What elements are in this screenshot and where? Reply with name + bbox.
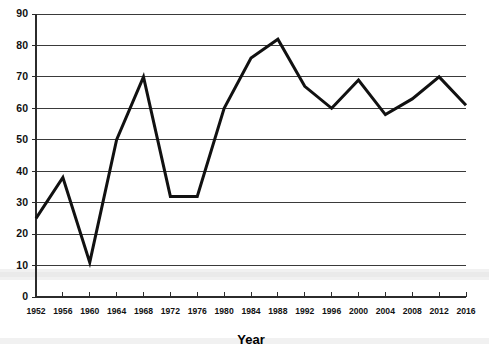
y-tick-label: 90	[16, 7, 28, 19]
x-tick-label: 2012	[430, 306, 449, 316]
x-tick-label: 2004	[376, 306, 395, 316]
data-series-line	[36, 39, 466, 262]
x-tick-label: 2000	[349, 306, 368, 316]
x-tick-label: 1964	[107, 306, 126, 316]
x-tick-group: 1952195619601964196819721976198019841988…	[26, 292, 475, 316]
scan-artifact-band-light	[0, 269, 489, 272]
y-tick-label: 20	[16, 227, 28, 239]
y-tick-label: 80	[16, 39, 28, 51]
y-tick-label: 40	[16, 165, 28, 177]
y-tick-label: 10	[16, 259, 28, 271]
x-tick-label: 1972	[161, 306, 180, 316]
line-chart: 0102030405060708090 19521956196019641968…	[0, 0, 489, 351]
x-tick-label: 1952	[26, 306, 45, 316]
gridlines-group	[36, 14, 466, 266]
y-tick-label: 30	[16, 196, 28, 208]
x-tick-label: 1956	[53, 306, 72, 316]
scan-artifact-band-light-2	[0, 277, 489, 280]
x-tick-label: 1960	[80, 306, 99, 316]
y-tick-group: 0102030405060708090	[16, 7, 36, 302]
x-tick-label: 1976	[188, 306, 207, 316]
x-tick-label: 1980	[215, 306, 234, 316]
y-tick-label: 0	[22, 290, 28, 302]
x-tick-label: 1996	[322, 306, 341, 316]
x-axis-title: Year	[237, 332, 264, 347]
y-tick-label: 70	[16, 70, 28, 82]
x-tick-label: 1988	[268, 306, 287, 316]
scan-artifact-band	[0, 272, 489, 277]
x-tick-label: 1968	[134, 306, 153, 316]
x-tick-label: 1992	[295, 306, 314, 316]
chart-canvas: 0102030405060708090 19521956196019641968…	[0, 0, 489, 351]
y-tick-label: 50	[16, 133, 28, 145]
x-tick-label: 1984	[241, 306, 260, 316]
x-tick-label: 2008	[403, 306, 422, 316]
y-tick-label: 60	[16, 102, 28, 114]
x-tick-label: 2016	[456, 306, 475, 316]
